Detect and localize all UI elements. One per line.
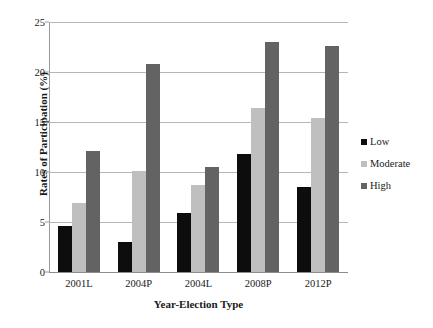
bar-low-2008p (237, 154, 251, 272)
chart-legend: LowModerateHigh (361, 136, 410, 191)
bar-high-2001l (86, 151, 100, 272)
legend-label-high: High (370, 180, 391, 191)
plot-area: 0510152025 (49, 22, 348, 272)
y-axis-tick-label: 10 (35, 167, 46, 178)
bar-high-2004p (146, 64, 160, 272)
legend-item-low: Low (361, 136, 410, 147)
bar-moderate-2001l (72, 203, 86, 272)
legend-swatch-low-icon (361, 139, 367, 145)
x-axis-tick-label-2008p: 2008P (228, 278, 288, 289)
x-axis-tick-label-2004p: 2004P (109, 278, 169, 289)
bar-group (169, 22, 229, 272)
legend-item-moderate: Moderate (361, 158, 410, 169)
bar-low-2004p (118, 242, 132, 272)
bar-moderate-2008p (251, 108, 265, 272)
bar-group (49, 22, 109, 272)
legend-swatch-high-icon (361, 183, 367, 189)
bar-moderate-2004p (132, 171, 146, 272)
bar-group (109, 22, 169, 272)
gridline (49, 272, 348, 273)
y-axis-tick-label: 25 (35, 17, 46, 28)
y-axis-tick-label: 5 (40, 217, 45, 228)
bar-low-2012p (297, 187, 311, 272)
x-axis-tick-label-2004l: 2004L (169, 278, 229, 289)
y-axis-tick-label: 15 (35, 117, 46, 128)
bar-group (288, 22, 348, 272)
bar-high-2008p (265, 42, 279, 272)
x-axis-tick-label-2001l: 2001L (49, 278, 109, 289)
bar-low-2001l (58, 226, 72, 272)
bar-low-2004l (177, 213, 191, 272)
legend-item-high: High (361, 180, 410, 191)
y-axis-tick-label: 20 (35, 67, 46, 78)
bar-high-2012p (325, 46, 339, 272)
x-axis-title: Year-Election Type (49, 298, 348, 310)
bar-chart-figure: Rates of Participation (%) 0510152025 20… (0, 0, 433, 328)
bar-high-2004l (205, 167, 219, 272)
legend-label-low: Low (370, 136, 389, 147)
x-axis-tick-label-2012p: 2012P (288, 278, 348, 289)
legend-swatch-moderate-icon (361, 161, 367, 167)
bar-moderate-2004l (191, 185, 205, 272)
y-axis-tick-label: 0 (40, 267, 45, 278)
bars-layer (49, 22, 348, 272)
legend-label-moderate: Moderate (370, 158, 410, 169)
bar-group (228, 22, 288, 272)
bar-moderate-2012p (311, 118, 325, 272)
x-axis-tick-labels: 2001L2004P2004L2008P2012P (49, 278, 348, 289)
